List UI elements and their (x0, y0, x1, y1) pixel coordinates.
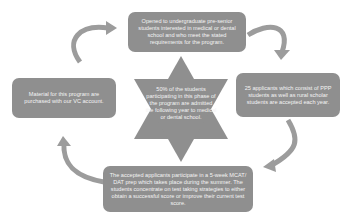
step-left-text: Material for this program are purchased … (16, 91, 112, 105)
arrowhead-top-icon (106, 21, 117, 35)
arrowhead-bottom-icon (263, 159, 276, 172)
arrowhead-left-icon (57, 136, 71, 146)
arrow-top-to-right (248, 27, 284, 52)
step-right-text: 25 applicants which consist of PPP stude… (240, 85, 336, 106)
step-top-text: Opened to undergraduate pre-senior stude… (132, 18, 242, 46)
step-top-box: Opened to undergraduate pre-senior stude… (128, 12, 246, 52)
arrow-bottom-to-left (64, 142, 104, 182)
step-bottom-box: The accepted applicants participate in a… (103, 166, 253, 212)
arrow-left-to-top (74, 27, 108, 62)
step-bottom-text: The accepted applicants participate in a… (107, 172, 249, 207)
step-right-box: 25 applicants which consist of PPP stude… (236, 73, 340, 117)
center-star-text: 50% of the students participating in thi… (145, 86, 217, 121)
arrowhead-right-icon (274, 50, 290, 60)
step-left-box: Material for this program are purchased … (12, 78, 116, 118)
arrow-right-to-bottom (272, 120, 295, 165)
